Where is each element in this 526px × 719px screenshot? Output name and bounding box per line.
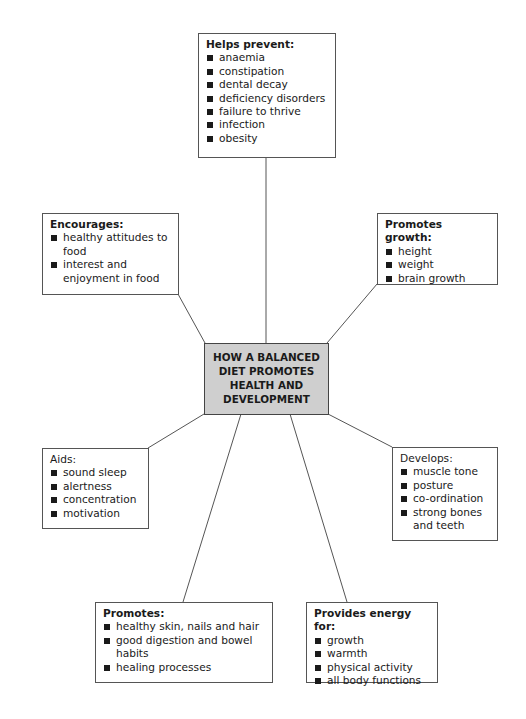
list-item: healthy attitudes to food — [50, 231, 172, 258]
list-item: sound sleep — [50, 466, 142, 479]
box-title: Promotes: — [103, 607, 266, 620]
list-item: constipation — [206, 65, 329, 78]
list-item: growth — [314, 634, 431, 647]
list-item: all body functions — [314, 674, 431, 687]
list-item: height — [385, 245, 491, 258]
connector-encourages — [178, 294, 205, 343]
box-title: Helps prevent: — [206, 38, 329, 51]
list-item: motivation — [50, 507, 142, 520]
list-item: anaemia — [206, 51, 329, 64]
box-develops: Develops: muscle tone posture co-ordinat… — [392, 447, 498, 541]
item-list: muscle tone posture co-ordination strong… — [400, 465, 491, 532]
list-item: failure to thrive — [206, 105, 329, 118]
list-item: co-ordination — [400, 492, 491, 505]
list-item: strong bones and teeth — [400, 506, 491, 533]
list-item: interest and enjoyment in food — [50, 258, 172, 285]
list-item: warmth — [314, 647, 431, 660]
item-list: healthy skin, nails and hair good digest… — [103, 620, 266, 674]
central-topic-text: HOW A BALANCED DIET PROMOTES HEALTH AND … — [213, 351, 320, 406]
list-item: posture — [400, 479, 491, 492]
list-item: muscle tone — [400, 465, 491, 478]
box-helps-prevent: Helps prevent: anaemia constipation dent… — [198, 33, 336, 158]
box-aids: Aids: sound sleep alertness concentratio… — [42, 448, 149, 529]
central-topic-line: DEVELOPMENT — [213, 393, 320, 407]
list-item: dental decay — [206, 78, 329, 91]
box-promotes-growth: Promotes growth: height weight brain gro… — [377, 213, 498, 285]
central-topic-line: HEALTH AND — [213, 379, 320, 393]
item-list: height weight brain growth — [385, 245, 491, 285]
list-item: brain growth — [385, 272, 491, 285]
central-topic-line: HOW A BALANCED — [213, 351, 320, 365]
list-item: healthy skin, nails and hair — [103, 620, 266, 633]
box-title: Encourages: — [50, 218, 172, 231]
box-promotes: Promotes: healthy skin, nails and hair g… — [95, 602, 273, 683]
list-item: physical activity — [314, 661, 431, 674]
list-item: deficiency disorders — [206, 92, 329, 105]
item-list: growth warmth physical activity all body… — [314, 634, 431, 688]
box-title: Aids: — [50, 453, 142, 466]
box-encourages: Encourages: healthy attitudes to food in… — [42, 213, 179, 295]
box-title: Provides energy for: — [314, 607, 431, 634]
central-topic-box: HOW A BALANCED DIET PROMOTES HEALTH AND … — [204, 343, 329, 415]
central-topic-line: DIET PROMOTES — [213, 365, 320, 379]
item-list: healthy attitudes to food interest and e… — [50, 231, 172, 285]
connector-promotes-growth — [327, 284, 377, 343]
list-item: concentration — [50, 493, 142, 506]
connector-aids — [148, 414, 204, 448]
list-item: obesity — [206, 132, 329, 145]
list-item: healing processes — [103, 661, 266, 674]
list-item: infection — [206, 118, 329, 131]
box-title: Promotes growth: — [385, 218, 491, 245]
item-list: anaemia constipation dental decay defici… — [206, 51, 329, 145]
item-list: sound sleep alertness concentration moti… — [50, 466, 142, 520]
connector-promotes — [183, 414, 241, 602]
list-item: weight — [385, 258, 491, 271]
list-item: alertness — [50, 480, 142, 493]
box-provides-energy: Provides energy for: growth warmth physi… — [306, 602, 438, 683]
connector-develops — [328, 414, 392, 447]
box-title: Develops: — [400, 452, 491, 465]
connector-provides-energy — [290, 414, 347, 602]
list-item: good digestion and bowel habits — [103, 634, 266, 661]
